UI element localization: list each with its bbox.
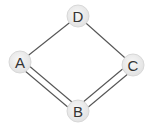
graph-diagram: D A C B <box>0 0 153 129</box>
node-label: D <box>73 8 84 25</box>
node-label: C <box>128 57 139 74</box>
node-b: B <box>67 100 89 122</box>
node-a: A <box>9 51 31 73</box>
node-label: A <box>15 54 25 71</box>
node-d: D <box>67 5 89 27</box>
node-c: C <box>122 54 144 76</box>
node-label: B <box>73 103 83 120</box>
